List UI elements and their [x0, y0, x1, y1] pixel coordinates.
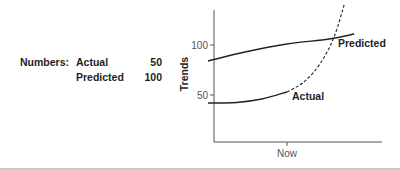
series-line-actual — [208, 92, 287, 103]
series-line-predicted — [208, 34, 354, 61]
series-line-actual-projected — [287, 5, 344, 92]
y-tick-label: 100 — [191, 40, 208, 51]
x-tick-label: Now — [277, 148, 298, 159]
annotation-actual: Actual — [292, 90, 324, 102]
bottom-divider — [0, 168, 400, 170]
annotation-predicted: Predicted — [338, 37, 386, 49]
y-axis-label: Trends — [178, 57, 190, 92]
trends-chart: Trends 10050Now PredictedActual — [0, 0, 400, 170]
y-tick-label: 50 — [197, 90, 209, 101]
